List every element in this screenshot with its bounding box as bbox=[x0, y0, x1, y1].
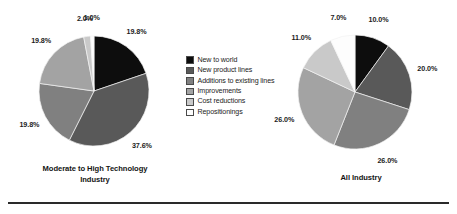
pie-slice-label: 37.6% bbox=[132, 142, 152, 149]
legend-item-label: Additions to existing lines bbox=[198, 78, 275, 85]
chart-panel-all-industry: 10.0%20.0%26.0%26.0%11.0%7.0% All Indust… bbox=[265, 0, 457, 214]
pie-chart-left bbox=[0, 0, 190, 165]
legend-swatch bbox=[186, 98, 194, 105]
pie-slices-right bbox=[298, 35, 412, 149]
legend-swatch bbox=[186, 109, 194, 116]
legend-item-label: Improvements bbox=[198, 88, 242, 95]
legend-item-label: New to world bbox=[198, 57, 238, 64]
chart-title-right: All Industry bbox=[265, 172, 457, 183]
pie-slice-label: 11.0% bbox=[292, 35, 311, 42]
pie-slice-label: 26.0% bbox=[274, 116, 294, 123]
legend-item-label: Repositionings bbox=[198, 109, 243, 116]
pie-slice-label: 10.0% bbox=[369, 16, 389, 23]
chart-title-right-line1: All Industry bbox=[265, 172, 457, 183]
chart-title-left: Moderate to High Technology Industry bbox=[0, 163, 190, 185]
chart-title-left-line1: Moderate to High Technology bbox=[0, 163, 190, 174]
legend-swatch bbox=[186, 67, 194, 74]
pie-slice-label: 7.0% bbox=[330, 14, 346, 21]
pie-slice-label: 20.0% bbox=[417, 65, 437, 72]
pie-slices-left bbox=[39, 36, 149, 146]
pie-chart-right bbox=[265, 0, 457, 175]
pie-slice-label: 19.8% bbox=[31, 37, 51, 44]
legend-swatch bbox=[186, 88, 194, 95]
pie-slice-label: 26.0% bbox=[377, 157, 397, 164]
chart-title-left-line2: Industry bbox=[0, 174, 190, 185]
pie-slice-label: 1.0% bbox=[84, 14, 100, 21]
footer-divider bbox=[8, 202, 449, 204]
pie-slice-label: 19.8% bbox=[19, 121, 39, 128]
legend-swatch bbox=[186, 56, 194, 63]
legend-swatch bbox=[186, 77, 194, 84]
pie-slice-label: 19.8% bbox=[127, 28, 147, 35]
chart-panel-moderate-high-technology: 19.8%37.6%19.8%19.8%2.0%1.0% Moderate to… bbox=[0, 0, 190, 214]
legend-item-label: New product lines bbox=[198, 67, 253, 74]
legend-item-label: Cost reductions bbox=[198, 98, 246, 105]
pie-chart-figure: 19.8%37.6%19.8%19.8%2.0%1.0% Moderate to… bbox=[0, 0, 457, 214]
